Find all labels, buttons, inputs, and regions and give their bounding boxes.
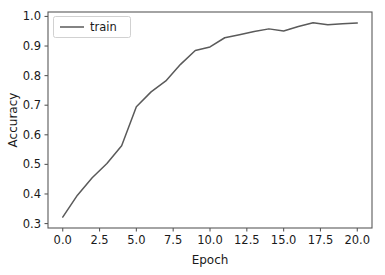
legend-label-train: train	[90, 20, 117, 34]
y-tick-label: 0.8	[23, 69, 41, 83]
x-tick-label: 20.0	[344, 233, 370, 247]
x-axis-title: Epoch	[192, 253, 229, 267]
y-tick-label: 0.7	[23, 98, 41, 112]
x-tick-label: 15.0	[271, 233, 297, 247]
x-tick-label: 10.0	[197, 233, 223, 247]
x-tick-label: 17.5	[308, 233, 334, 247]
chart-figure: 0.02.55.07.510.012.515.017.520.0 0.30.40…	[0, 0, 385, 275]
legend[interactable]: train	[54, 17, 131, 38]
y-axis-title: Accuracy	[6, 93, 20, 148]
x-tick-label: 2.5	[90, 233, 108, 247]
y-tick-label: 0.4	[23, 187, 41, 201]
y-tick-label: 0.6	[23, 128, 41, 142]
accuracy-line-chart: 0.02.55.07.510.012.515.017.520.0 0.30.40…	[0, 0, 385, 275]
x-tick-label: 5.0	[127, 233, 145, 247]
y-tick-label: 0.3	[23, 217, 41, 231]
y-tick-label: 1.0	[23, 9, 41, 23]
x-tick-label: 7.5	[164, 233, 182, 247]
x-tick-label: 12.5	[234, 233, 260, 247]
y-tick-label: 0.5	[23, 157, 41, 171]
x-tick-label: 0.0	[54, 233, 72, 247]
y-tick-label: 0.9	[23, 39, 41, 53]
